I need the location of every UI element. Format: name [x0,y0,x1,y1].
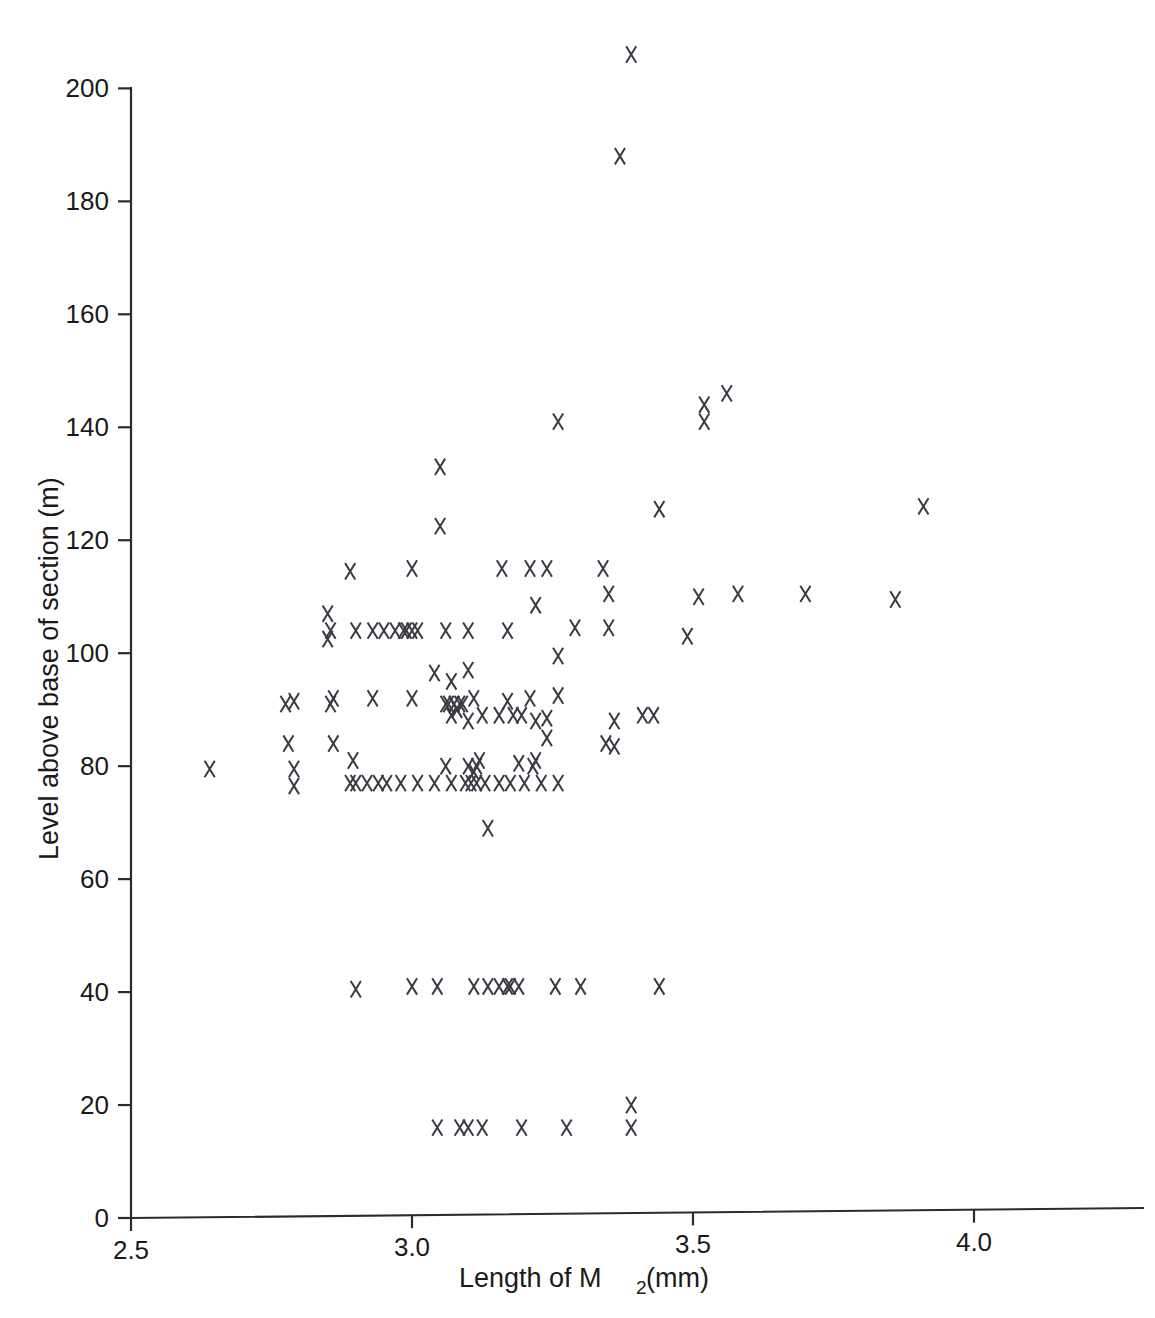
data-point-marker [463,713,473,729]
data-point-marker [463,662,473,678]
data-point-marker [435,518,445,534]
y-axis-ticks [118,88,131,1218]
x-axis-tick-labels: 2.53.03.54.0 [113,1227,992,1265]
y-tick-label: 120 [66,525,109,555]
data-point-marker [463,1119,473,1135]
data-point-marker [382,775,392,791]
data-point-marker [446,775,456,791]
data-point-marker [469,690,479,706]
data-point-marker [483,978,493,994]
data-point-marker [519,775,529,791]
x-tick-label: 3.0 [394,1232,430,1262]
data-point-marker [497,560,507,576]
svg-text:Length of M: Length of M [459,1263,602,1293]
data-point-marker [463,622,473,638]
x-axis-line [131,1208,1143,1218]
data-point-marker [362,775,372,791]
data-point-marker [514,978,524,994]
data-point-marker [525,690,535,706]
data-point-marker [289,761,299,777]
data-point-marker [525,560,535,576]
data-point-marker [407,560,417,576]
data-point-marker [494,707,504,723]
data-point-marker [345,775,355,791]
data-point-marker [441,758,451,774]
x-tick-label: 2.5 [113,1235,149,1265]
data-point-marker [205,761,215,777]
data-point-marker [373,775,383,791]
data-point-marker [396,775,406,791]
data-point-marker [289,778,299,794]
data-point-marker [654,978,664,994]
data-point-marker [800,586,810,602]
data-point-marker [626,1119,636,1135]
data-point-marker [604,586,614,602]
x-tick-label: 3.5 [675,1229,711,1259]
y-axis-title: Level above base of section (m) [34,477,64,860]
y-tick-label: 60 [80,864,109,894]
y-tick-label: 80 [80,751,109,781]
scatter-plot-figure: 020406080100120140160180200 2.53.03.54.0… [0,0,1155,1318]
data-point-marker [413,775,423,791]
data-point-marker [550,978,560,994]
data-point-marker [407,978,417,994]
y-axis-tick-labels: 020406080100120140160180200 [66,73,109,1233]
data-point-marker [553,413,563,429]
data-point-marker [609,738,619,754]
data-point-marker [325,696,335,712]
data-point-marker [508,707,518,723]
data-point-marker [604,620,614,636]
y-tick-label: 180 [66,186,109,216]
svg-text:(mm): (mm) [646,1263,709,1293]
data-point-marker [553,687,563,703]
data-point-marker [446,673,456,689]
data-point-marker [477,707,487,723]
svg-text:2: 2 [636,1277,647,1298]
y-tick-label: 20 [80,1090,109,1120]
data-point-marker [280,696,290,712]
data-point-marker [379,622,389,638]
data-point-marker [368,622,378,638]
data-point-marker [323,605,333,621]
data-point-marker [494,775,504,791]
data-point-marker [407,622,417,638]
data-point-marker [480,775,490,791]
data-point-marker [429,775,439,791]
data-point-marker [460,775,470,791]
data-point-marker [699,413,709,429]
data-point-marker [477,1119,487,1135]
data-point-marker [505,775,515,791]
data-point-marker [469,978,479,994]
data-point-marker [441,622,451,638]
plot-canvas: 020406080100120140160180200 2.53.03.54.0… [0,0,1155,1318]
data-point-marker [413,622,423,638]
data-point-marker [429,665,439,681]
data-point-marker [452,701,462,717]
y-tick-label: 160 [66,299,109,329]
data-point-marker [390,622,400,638]
y-tick-label: 100 [66,638,109,668]
data-point-marker [463,758,473,774]
data-point-marker [494,978,504,994]
data-point-marker [654,501,664,517]
data-point-marker [694,589,704,605]
data-point-marker [432,1119,442,1135]
data-point-marker [435,459,445,475]
data-point-marker [890,591,900,607]
data-point-marker [351,622,361,638]
data-point-marker [483,820,493,836]
data-point-marker [601,735,611,751]
data-point-marker [542,560,552,576]
x-tick-label: 4.0 [956,1227,992,1257]
data-point-marker [407,690,417,706]
data-point-marker [576,978,586,994]
data-point-marker [531,713,541,729]
data-point-markers [205,46,929,1136]
data-point-marker [542,730,552,746]
data-point-marker [561,1119,571,1135]
data-point-marker [682,628,692,644]
data-point-marker [531,597,541,613]
data-point-marker [455,1119,465,1135]
y-tick-label: 200 [66,73,109,103]
x-axis-title: Length of M 2 (mm) [459,1263,709,1298]
